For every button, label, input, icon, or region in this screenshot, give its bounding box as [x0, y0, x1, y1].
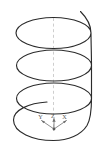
helix-figure: Y Z X: [0, 0, 112, 150]
y-axis-label: Y: [38, 113, 43, 120]
origin-point: [53, 128, 56, 131]
z-axis-label: Z: [51, 112, 55, 119]
helix-diagram-canvas: Y Z X: [0, 0, 112, 150]
x-axis-label: X: [62, 113, 67, 120]
